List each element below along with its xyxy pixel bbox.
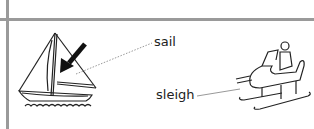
sleigh-label: sleigh <box>156 88 195 101</box>
sleigh-illustration <box>236 42 310 109</box>
illustration-canvas <box>0 0 314 129</box>
sail-label: sail <box>154 35 176 48</box>
sail-leader-line <box>76 43 152 74</box>
sleigh-leader-line <box>197 89 240 96</box>
